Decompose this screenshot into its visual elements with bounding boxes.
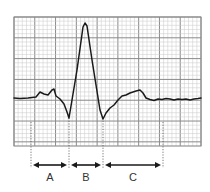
ecg-grid: [14, 17, 201, 146]
ecg-diagram: [0, 0, 210, 192]
interval-label-b: B: [76, 171, 96, 183]
interval-arrows: [33, 162, 161, 168]
interval-label-c: C: [123, 171, 143, 183]
interval-label-a: A: [40, 171, 60, 183]
